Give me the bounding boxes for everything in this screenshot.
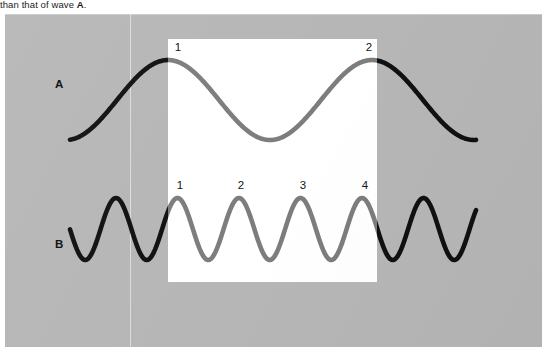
crest-number-a-1: 1 bbox=[170, 41, 186, 53]
figure-caption: than that of wave A. bbox=[0, 0, 420, 12]
caption-suffix: . bbox=[84, 0, 87, 10]
wave-row-label-b: B bbox=[55, 238, 64, 250]
vertical-seam-line bbox=[130, 14, 131, 347]
figure-plate: A B 121234 bbox=[5, 14, 542, 347]
crest-number-b-4: 4 bbox=[357, 179, 373, 191]
caption-bold-label: A bbox=[77, 0, 84, 10]
plate-top-edge bbox=[5, 14, 542, 15]
crest-number-b-2: 2 bbox=[233, 179, 249, 191]
highlight-window-box bbox=[168, 39, 377, 282]
caption-prefix: than that of wave bbox=[0, 0, 77, 10]
crest-number-a-2: 2 bbox=[361, 41, 377, 53]
figure-root: than that of wave A. bbox=[0, 0, 542, 347]
wave-row-label-a: A bbox=[55, 78, 64, 90]
crest-number-b-1: 1 bbox=[172, 179, 188, 191]
crest-number-b-3: 3 bbox=[295, 179, 311, 191]
